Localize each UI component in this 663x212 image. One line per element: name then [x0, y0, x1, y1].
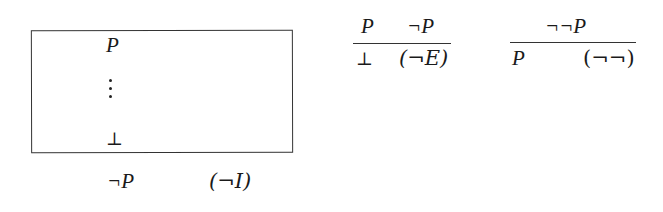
vertical-ellipsis-icon: [109, 79, 113, 101]
rule-label: (¬I): [209, 171, 251, 192]
premise-2: ¬P: [407, 16, 434, 37]
conclusion-formula: ¬P: [107, 171, 134, 192]
assumption-formula: P: [106, 35, 119, 56]
conclusion-formula: ⊥: [356, 50, 373, 68]
conclusion-formula: P: [512, 48, 525, 69]
bottom-symbol: ⊥: [106, 130, 123, 148]
premise: ¬¬P: [545, 16, 586, 37]
rule-label: (¬¬): [583, 48, 635, 69]
inference-line: [353, 43, 451, 44]
inference-line: [510, 42, 636, 43]
rule-label: (¬E): [399, 48, 448, 69]
premise-1: P: [361, 16, 374, 37]
subproof-box: [31, 30, 293, 154]
